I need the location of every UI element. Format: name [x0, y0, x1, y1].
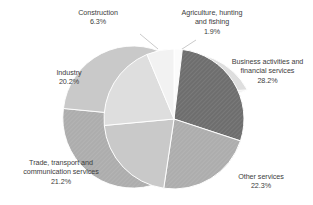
pie-label-agriculture-percent: 1.9% [158, 27, 266, 36]
pie-label-trade-line2: communication services [4, 167, 118, 176]
pie-label-construction-percent: 6.3% [56, 17, 140, 26]
pie-label-business-line1: Business activities and [222, 57, 313, 66]
pie-label-other-services: Other services 22.3% [216, 172, 306, 191]
pie-label-business-activities: Business activities and financial servic… [222, 57, 313, 85]
pie-label-industry-line1: Industry [28, 68, 110, 77]
pie-label-trade-line1: Trade, transport and [4, 158, 118, 167]
pie-label-agriculture-line2: and fishing [158, 17, 266, 26]
pie-chart: Agriculture, hunting and fishing 1.9% Bu… [0, 0, 313, 205]
pie-label-industry: Industry 20.2% [28, 68, 110, 87]
pie-label-trade-percent: 21.2% [4, 177, 118, 186]
pie-label-industry-percent: 20.2% [28, 77, 110, 86]
pie-label-business-percent: 28.2% [222, 76, 313, 85]
pie-label-other-line1: Other services [216, 172, 306, 181]
pie-label-agriculture: Agriculture, hunting and fishing 1.9% [158, 8, 266, 36]
pie-label-construction-line1: Construction [56, 8, 140, 17]
pie-label-other-percent: 22.3% [216, 181, 306, 190]
pie-label-construction: Construction 6.3% [56, 8, 140, 27]
pie-label-business-line2: financial services [222, 66, 313, 75]
pie-label-agriculture-line1: Agriculture, hunting [158, 8, 266, 17]
pie-label-trade-transport: Trade, transport and communication servi… [4, 158, 118, 186]
